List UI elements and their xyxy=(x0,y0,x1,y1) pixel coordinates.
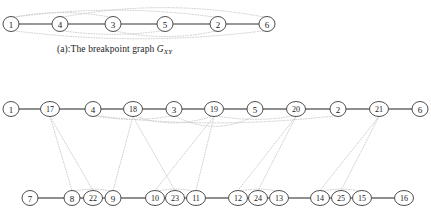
node-19[interactable]: 19 xyxy=(205,102,224,117)
node-label: 19 xyxy=(210,105,218,114)
node-3[interactable]: 3 xyxy=(105,17,121,32)
node-21[interactable]: 21 xyxy=(370,102,389,117)
node-12[interactable]: 12 xyxy=(229,191,248,206)
node-16[interactable]: 16 xyxy=(395,191,414,206)
node-22[interactable]: 22 xyxy=(84,191,103,206)
node-13[interactable]: 13 xyxy=(270,191,289,206)
node-label: 5 xyxy=(253,105,258,115)
link-19-10 xyxy=(155,117,214,191)
node-label: 4 xyxy=(91,105,96,115)
diagram-canvas: 1435261174183195202216782291023111224131… xyxy=(0,0,431,221)
node-label: 16 xyxy=(400,194,408,203)
mid-arc-3-5 xyxy=(174,115,255,126)
node-2[interactable]: 2 xyxy=(210,17,226,32)
caption-a-symbol: G xyxy=(157,44,164,54)
link-18-23 xyxy=(133,117,175,191)
node-label: 10 xyxy=(151,194,159,203)
node-label: 2 xyxy=(336,105,341,115)
link-17-8 xyxy=(50,117,72,191)
node-label: 12 xyxy=(234,194,242,203)
node-5[interactable]: 5 xyxy=(247,102,263,117)
node-label: 20 xyxy=(292,105,300,114)
node-label: 21 xyxy=(375,105,383,114)
node-18[interactable]: 18 xyxy=(124,102,143,117)
node-label: 7 xyxy=(28,194,33,204)
node-label: 15 xyxy=(358,194,366,203)
node-label: 17 xyxy=(46,105,54,114)
node-label: 3 xyxy=(111,20,116,30)
node-label: 5 xyxy=(163,20,168,30)
node-label: 1 xyxy=(9,105,14,115)
node-label: 11 xyxy=(192,194,200,203)
node-14[interactable]: 14 xyxy=(311,191,330,206)
node-label: 25 xyxy=(337,194,345,203)
node-10[interactable]: 10 xyxy=(146,191,165,206)
link-21-25 xyxy=(341,117,379,191)
node-20[interactable]: 20 xyxy=(287,102,306,117)
node-label: 6 xyxy=(418,105,423,115)
dotted-edge-layer xyxy=(11,8,379,192)
node-6[interactable]: 6 xyxy=(259,17,275,32)
node-label: 14 xyxy=(316,194,324,203)
figure-root: 1435261174183195202216782291023111224131… xyxy=(0,0,431,221)
link-21-14 xyxy=(320,117,379,191)
caption-graph-a: (a):The breakpoint graph GXY xyxy=(57,44,172,56)
node-17[interactable]: 17 xyxy=(41,102,60,117)
node-label: 23 xyxy=(171,194,179,203)
node-23[interactable]: 23 xyxy=(166,191,185,206)
node-label: 24 xyxy=(254,194,262,203)
link-18-9 xyxy=(113,117,133,191)
node-label: 8 xyxy=(70,194,75,204)
node-4[interactable]: 4 xyxy=(52,17,68,32)
node-label: 4 xyxy=(58,20,63,30)
node-6[interactable]: 6 xyxy=(412,102,428,117)
link-20-24 xyxy=(258,117,296,191)
node-label: 18 xyxy=(129,105,137,114)
node-25[interactable]: 25 xyxy=(332,191,351,206)
node-15[interactable]: 15 xyxy=(353,191,372,206)
node-label: 2 xyxy=(216,20,221,30)
node-label: 22 xyxy=(89,194,97,203)
caption-a-subscript: XY xyxy=(164,48,172,56)
node-3[interactable]: 3 xyxy=(166,102,182,117)
node-24[interactable]: 24 xyxy=(249,191,268,206)
node-5[interactable]: 5 xyxy=(157,17,173,32)
link-17-22 xyxy=(50,117,93,191)
node-2[interactable]: 2 xyxy=(330,102,346,117)
node-7[interactable]: 7 xyxy=(22,191,38,206)
node-8[interactable]: 8 xyxy=(64,191,80,206)
node-label: 1 xyxy=(9,20,14,30)
node-9[interactable]: 9 xyxy=(105,191,121,206)
node-1[interactable]: 1 xyxy=(3,17,19,32)
node-label: 9 xyxy=(111,194,116,204)
node-label: 6 xyxy=(265,20,270,30)
node-4[interactable]: 4 xyxy=(85,102,101,117)
caption-a-text: (a):The breakpoint graph xyxy=(57,44,157,54)
node-label: 3 xyxy=(172,105,177,115)
node-11[interactable]: 11 xyxy=(187,191,206,206)
node-1[interactable]: 1 xyxy=(3,102,19,117)
node-label: 13 xyxy=(275,194,283,203)
arc-above-4-6 xyxy=(60,8,267,18)
link-20-12 xyxy=(238,117,296,191)
